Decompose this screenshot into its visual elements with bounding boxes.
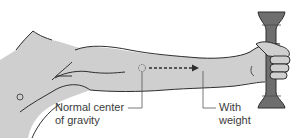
normal-center-label-line1: Normal center bbox=[55, 101, 124, 114]
normal-center-label: Normal center of gravity bbox=[55, 101, 124, 127]
with-weight-label-line2: weight bbox=[219, 114, 251, 127]
normal-center-label-line2: of gravity bbox=[55, 114, 124, 127]
with-weight-label-line1: With bbox=[219, 101, 251, 114]
with-weight-label: With weight bbox=[219, 101, 251, 127]
arm-with-weight-illustration bbox=[0, 0, 308, 138]
